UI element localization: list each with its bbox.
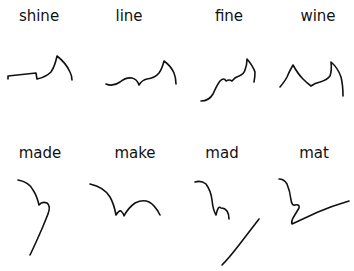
stroke-line	[106, 61, 176, 85]
stroke-made	[18, 180, 49, 255]
stroke-shine	[8, 56, 72, 80]
stroke-wine	[280, 62, 343, 96]
stroke-fine	[201, 59, 255, 101]
stroke-make	[90, 184, 160, 216]
stroke-canvas	[0, 0, 354, 271]
stroke-mad-upper	[195, 181, 229, 219]
stroke-mad-lower	[222, 219, 259, 265]
stroke-mat	[279, 179, 349, 224]
